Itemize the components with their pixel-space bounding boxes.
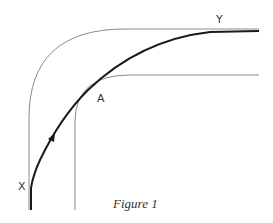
label-a: A [97, 93, 105, 104]
figure-canvas: X Y A Figure 1 [0, 0, 273, 223]
label-x: X [18, 181, 26, 192]
driving-line [31, 31, 259, 210]
figure-caption: Figure 1 [113, 197, 158, 210]
road-diagram [0, 0, 273, 223]
label-y: Y [216, 14, 223, 25]
